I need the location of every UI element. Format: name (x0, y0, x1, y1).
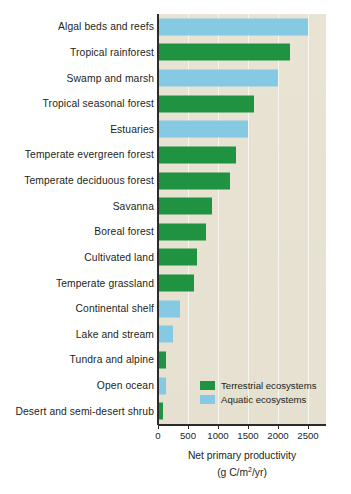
bar (158, 44, 290, 61)
bar-category-label: Temperate evergreen forest (25, 149, 154, 160)
bar-category-label: Algal beds and reefs (58, 21, 154, 32)
legend: Terrestrial ecosystemsAquatic ecosystems (200, 380, 316, 405)
bar (158, 275, 194, 292)
bar-row: Tropical rainforest (0, 40, 351, 66)
x-tick-label: 2000 (267, 430, 288, 441)
bar (158, 95, 254, 112)
legend-swatch-terrestrial (200, 381, 215, 390)
bar-row: Temperate evergreen forest (0, 142, 351, 168)
bar-category-label: Cultivated land (84, 252, 154, 263)
x-tick (158, 424, 159, 429)
bar-category-label: Tropical seasonal forest (43, 98, 154, 109)
bar-category-label: Swamp and marsh (67, 73, 154, 84)
x-tick (278, 424, 279, 429)
bar (158, 121, 248, 138)
bar (158, 326, 173, 343)
bar (158, 403, 163, 420)
x-tick (188, 424, 189, 429)
x-axis-title: Net primary productivity (g C/m2/yr) (158, 449, 326, 480)
bar-row: Swamp and marsh (0, 65, 351, 91)
bar (158, 70, 278, 87)
bar (158, 351, 166, 368)
bar-row: Savanna (0, 193, 351, 219)
x-tick (248, 424, 249, 429)
bar-row: Boreal forest (0, 219, 351, 245)
legend-label: Aquatic ecosystems (221, 394, 306, 405)
x-tick-label: 500 (180, 430, 196, 441)
bar-category-label: Tropical rainforest (70, 47, 154, 58)
bar-category-label: Estuaries (110, 124, 154, 135)
bar-category-label: Boreal forest (94, 226, 154, 237)
bar-category-label: Tundra and alpine (70, 354, 154, 365)
bar (158, 172, 230, 189)
y-axis-line (157, 14, 159, 425)
x-axis-title-main: Net primary productivity (188, 450, 296, 461)
bar-row: Algal beds and reefs (0, 14, 351, 40)
chart-figure: Algal beds and reefsTropical rainforestS… (0, 0, 351, 494)
legend-label: Terrestrial ecosystems (221, 380, 316, 391)
bar-category-label: Continental shelf (76, 303, 154, 314)
legend-item: Terrestrial ecosystems (200, 380, 316, 391)
bar-category-label: Lake and stream (76, 329, 154, 340)
bar-category-label: Temperate grassland (56, 278, 154, 289)
bar-row: Tundra and alpine (0, 347, 351, 373)
bar-category-label: Savanna (113, 201, 154, 212)
x-tick (308, 424, 309, 429)
bar-row: Temperate deciduous forest (0, 168, 351, 194)
bar-row: Cultivated land (0, 245, 351, 271)
bar-row: Temperate grassland (0, 270, 351, 296)
bar (158, 377, 166, 394)
bar-category-label: Desert and semi-desert shrub (15, 406, 154, 417)
bar (158, 198, 212, 215)
x-tick-label: 0 (155, 430, 160, 441)
bar (158, 146, 236, 163)
x-axis-line (158, 424, 326, 426)
bar (158, 223, 206, 240)
x-tick-label: 2500 (297, 430, 318, 441)
legend-swatch-aquatic (200, 395, 215, 404)
bar-rows: Algal beds and reefsTropical rainforestS… (0, 14, 351, 424)
bar-category-label: Temperate deciduous forest (24, 175, 154, 186)
bar-row: Continental shelf (0, 296, 351, 322)
bar-row: Lake and stream (0, 322, 351, 348)
x-tick (218, 424, 219, 429)
x-tick-label: 1000 (207, 430, 228, 441)
legend-item: Aquatic ecosystems (200, 394, 316, 405)
bar-category-label: Open ocean (97, 380, 154, 391)
x-tick-label: 1500 (237, 430, 258, 441)
bar-row: Tropical seasonal forest (0, 91, 351, 117)
bar (158, 300, 180, 317)
bar (158, 18, 308, 35)
x-axis-title-units: (g C/m2/yr) (158, 463, 326, 480)
bar (158, 249, 197, 266)
bar-row: Estuaries (0, 117, 351, 143)
